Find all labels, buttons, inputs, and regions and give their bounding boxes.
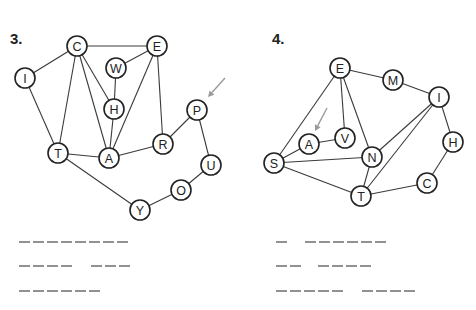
node-label: N: [367, 151, 376, 165]
node-label: H: [448, 136, 457, 150]
answer-blanks: [19, 242, 130, 291]
node-P: P: [187, 100, 207, 120]
edge-N-I: [372, 97, 439, 157]
node-M: M: [383, 70, 403, 90]
edge-S-T: [274, 163, 361, 196]
node-label: A: [105, 152, 114, 166]
node-label: U: [206, 159, 215, 173]
puzzle-sheet: 3. CEWIHPRTAUOY 4. EMIVAHNSCT: [0, 0, 476, 310]
node-label: A: [305, 138, 314, 152]
node-Y: Y: [130, 200, 150, 220]
node-label: I: [23, 72, 26, 86]
node-C: C: [417, 173, 437, 193]
start-arrow-icon: [315, 108, 327, 131]
node-label: C: [422, 177, 431, 191]
node-label: H: [109, 103, 118, 117]
node-label: W: [110, 62, 122, 76]
node-N: N: [362, 147, 382, 167]
edge-C-A: [77, 46, 109, 158]
node-label: T: [54, 147, 62, 161]
node-H: H: [443, 132, 463, 152]
edge-S-N: [274, 157, 372, 163]
answer-blanks: [276, 242, 415, 291]
node-label: E: [336, 62, 344, 76]
node-label: R: [158, 138, 167, 152]
node-label: C: [72, 40, 81, 54]
node-label: I: [437, 91, 440, 105]
node-I: I: [15, 68, 35, 88]
arrow-shaft: [318, 108, 327, 126]
node-I: I: [429, 87, 449, 107]
node-S: S: [264, 153, 284, 173]
node-label: M: [388, 74, 398, 88]
edge-I-T: [25, 78, 58, 153]
node-R: R: [153, 134, 173, 154]
node-label: O: [176, 184, 186, 198]
node-label: S: [270, 157, 278, 171]
arrow-shaft: [212, 78, 225, 93]
node-W: W: [106, 58, 126, 78]
node-label: Y: [136, 204, 145, 218]
node-T: T: [351, 186, 371, 206]
edge-C-T: [58, 46, 77, 153]
node-label: E: [153, 40, 161, 54]
graph-nodes: CEWIHPRTAUOY: [15, 36, 221, 220]
node-label: V: [341, 132, 350, 146]
node-A: A: [299, 134, 319, 154]
node-label: T: [357, 190, 365, 204]
node-E: E: [147, 36, 167, 56]
node-V: V: [335, 128, 355, 148]
node-U: U: [201, 155, 221, 175]
node-O: O: [171, 180, 191, 200]
node-E: E: [330, 58, 350, 78]
puzzle-number: 3.: [10, 30, 23, 47]
node-H: H: [104, 99, 124, 119]
edge-C-H: [77, 46, 114, 109]
puzzle-4: 4. EMIVAHNSCT: [264, 30, 463, 291]
node-label: P: [193, 104, 201, 118]
puzzle-3: 3. CEWIHPRTAUOY: [10, 30, 225, 291]
node-T: T: [48, 143, 68, 163]
node-A: A: [99, 148, 119, 168]
start-arrow-icon: [208, 78, 225, 97]
node-C: C: [67, 36, 87, 56]
puzzle-number: 4.: [272, 30, 285, 47]
edge-E-R: [157, 46, 163, 144]
